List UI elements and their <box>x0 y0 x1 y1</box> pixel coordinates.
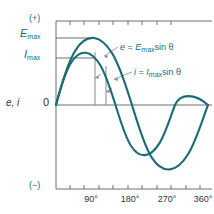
y-tick-label-imax: Imax <box>24 49 40 60</box>
equation-voltage: e = Emaxsin θ <box>120 43 174 52</box>
axis-positive-label: (+) <box>29 14 40 23</box>
y-tick-label-emax: Emax <box>20 28 41 39</box>
bottom-axis <box>56 185 212 189</box>
y-axis-label: e, i <box>6 98 19 108</box>
origin-label: 0 <box>43 97 49 108</box>
imax-subscript: max <box>27 54 40 61</box>
emax-subscript: max <box>27 33 40 40</box>
x-tick-label: 360° <box>194 195 213 204</box>
axis-negative-label: (−) <box>29 181 40 190</box>
equation-current: i = Imaxsin θ <box>134 68 181 77</box>
x-tick-label: 270° <box>158 195 177 204</box>
x-tick-label: 180° <box>121 195 140 204</box>
top-axis <box>56 21 212 25</box>
sine-wave-chart: (+) (−) Emax Imax e, i 0 e = Emaxsin θ i… <box>0 0 214 214</box>
x-tick-label: 90° <box>84 195 98 204</box>
